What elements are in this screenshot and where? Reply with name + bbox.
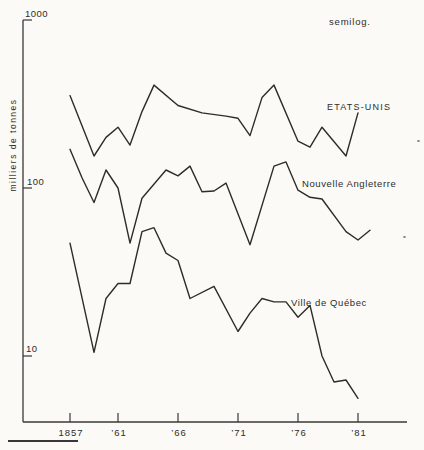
scan-artifact-dot: [417, 140, 420, 142]
y-axis-title: milliers de tonnes: [8, 98, 18, 191]
series-line-2: [70, 149, 370, 244]
series-label-3: Ville de Québec: [291, 297, 367, 308]
y-tick-label: 10: [26, 343, 38, 354]
x-tick-label: ’81: [351, 427, 367, 438]
labels-group: 1000100101857’61’66’71’76’81ETATS-UNISNo…: [8, 8, 396, 438]
x-tick-label: ’76: [291, 427, 307, 438]
series-group: [70, 85, 370, 398]
series-line-1: [70, 85, 358, 156]
series-label-1: ETATS-UNIS: [327, 102, 391, 112]
scan-artifact-dot: [403, 236, 406, 238]
x-tick-label: 1857: [58, 427, 83, 438]
series-label-2: Nouvelle Angleterre: [302, 178, 396, 189]
tonnage-semilog-chart: 1000100101857’61’66’71’76’81ETATS-UNISNo…: [0, 0, 424, 450]
x-tick-label: ’71: [231, 427, 247, 438]
y-tick-label: 100: [27, 176, 44, 187]
axes-group: [23, 20, 407, 422]
x-tick-label: ’61: [111, 427, 127, 438]
semilog-annotation: semilog.: [329, 16, 371, 27]
scanned-chart-page: 1000100101857’61’66’71’76’81ETATS-UNISNo…: [0, 0, 424, 450]
page-bottom-rule: [8, 440, 78, 442]
series-line-3: [70, 228, 358, 399]
y-tick-label: 1000: [25, 8, 48, 19]
x-tick-label: ’66: [171, 427, 187, 438]
